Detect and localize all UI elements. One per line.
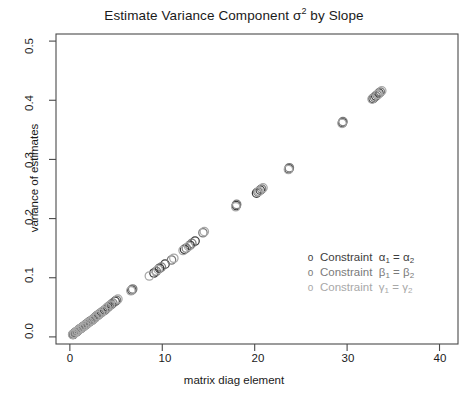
legend-marker-circle-icon: o (304, 280, 317, 295)
legend-item-label: Constraint γ1 = γ2 (320, 280, 412, 296)
data-point (170, 254, 178, 262)
legend-item-2[interactable]: oConstraint β1 = β2 (304, 265, 414, 280)
legend-item-1[interactable]: oConstraint α1 = α2 (304, 250, 414, 265)
y-axis-label: variance of estimates (28, 58, 40, 298)
legend-item-3[interactable]: oConstraint γ1 = γ2 (304, 280, 414, 295)
plot-canvas (0, 0, 468, 400)
legend-marker-circle-icon: o (304, 250, 317, 265)
legend-item-label: Constraint α1 = α2 (320, 250, 414, 266)
x-axis-label: matrix diag element (0, 374, 468, 386)
legend-item-label: Constraint β1 = β2 (320, 265, 414, 281)
legend-marker-circle-icon: o (304, 265, 317, 280)
x-tick-label-20: 20 (238, 352, 278, 364)
chart-legend: oConstraint α1 = α2oConstraint β1 = β2oC… (304, 250, 414, 295)
x-tick-label-30: 30 (328, 352, 368, 364)
x-tick-label-40: 40 (420, 352, 460, 364)
series-2-points (69, 88, 384, 338)
x-tick-label-10: 10 (145, 352, 185, 364)
scatter-plot-figure: Estimate Variance Component σ2 by Slope … (0, 0, 468, 400)
x-tick-label-0: 0 (50, 352, 90, 364)
y-tick-label-00: 0.0 (23, 314, 35, 348)
